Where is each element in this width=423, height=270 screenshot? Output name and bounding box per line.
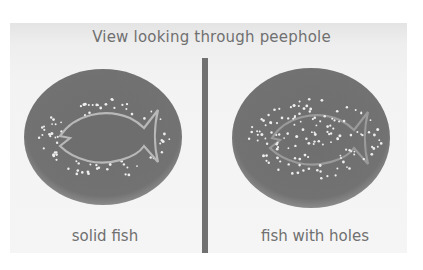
caption-fish-with-holes: fish with holes	[230, 227, 400, 245]
caption-solid-fish: solid fish	[30, 227, 180, 245]
diagram-title: View looking through peephole	[0, 28, 423, 46]
plate-fish-with-holes	[228, 66, 396, 212]
plate-solid-fish	[20, 66, 188, 210]
divider	[202, 58, 208, 253]
